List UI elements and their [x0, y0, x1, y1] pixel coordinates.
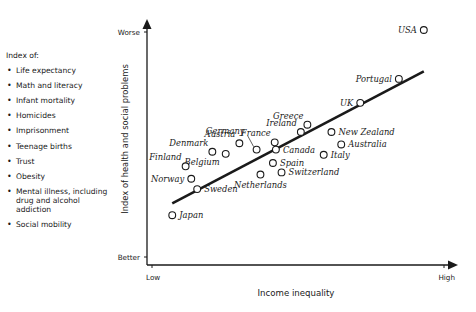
point-marker-icon: [278, 169, 285, 176]
point-marker-icon: [272, 146, 279, 153]
point-marker-icon: [257, 171, 264, 178]
data-point-switzerland: Switzerland: [278, 167, 340, 177]
point-marker-icon: [182, 163, 189, 170]
scatter-plot: Worse Better Low High Income inequality …: [0, 0, 476, 312]
country-label: UK: [340, 98, 354, 108]
data-point-finland: Finland: [148, 152, 189, 169]
data-point-norway: Norway: [150, 174, 195, 184]
point-marker-icon: [194, 186, 201, 193]
y-axis: Worse Better: [118, 19, 152, 265]
x-axis-title: Income inequality: [258, 288, 335, 298]
point-marker-icon: [236, 140, 243, 147]
point-marker-icon: [357, 99, 364, 106]
point-marker-icon: [420, 27, 427, 34]
data-point-france: France: [240, 128, 278, 145]
data-point-uk: UK: [340, 98, 364, 108]
country-label: Netherlands: [233, 180, 287, 190]
country-label: Japan: [177, 210, 203, 220]
country-label: Austria: [204, 129, 236, 139]
point-marker-icon: [271, 139, 278, 146]
y-top-label: Worse: [118, 28, 141, 37]
data-point-new-zealand: New Zealand: [328, 127, 395, 137]
point-marker-icon: [304, 121, 311, 128]
country-label: Italy: [330, 150, 350, 160]
y-bottom-label: Better: [118, 253, 140, 262]
point-marker-icon: [188, 175, 195, 182]
point-marker-icon: [395, 75, 402, 82]
country-label: Ireland: [265, 118, 297, 128]
data-point-japan: Japan: [169, 210, 204, 220]
point-marker-icon: [328, 129, 335, 136]
point-marker-icon: [320, 151, 327, 158]
country-label: Denmark: [168, 138, 208, 148]
x-left-label: Low: [146, 273, 160, 282]
point-marker-icon: [297, 129, 304, 136]
x-axis-arrow-icon: [448, 261, 458, 270]
point-marker-icon: [209, 148, 216, 155]
country-label: Switzerland: [289, 167, 340, 177]
x-axis: Low High Income inequality: [146, 261, 458, 299]
country-label: New Zealand: [337, 127, 395, 137]
point-marker-icon: [169, 212, 176, 219]
x-right-label: High: [438, 273, 455, 282]
point-marker-icon: [222, 150, 229, 157]
country-label: Sweden: [204, 184, 238, 194]
country-label: Norway: [150, 174, 185, 184]
country-label: Australia: [347, 139, 386, 149]
point-marker-icon: [253, 146, 260, 153]
data-point-australia: Australia: [338, 139, 387, 149]
data-point-belgium: Belgium: [184, 150, 230, 166]
point-marker-icon: [338, 141, 345, 148]
point-marker-icon: [270, 160, 277, 167]
country-label: Portugal: [355, 74, 392, 84]
country-label: Finland: [148, 152, 182, 162]
y-axis-arrow-icon: [143, 19, 152, 29]
country-label: Canada: [283, 145, 315, 155]
data-point-italy: Italy: [320, 150, 350, 160]
country-label: USA: [398, 25, 417, 35]
data-point-portugal: Portugal: [355, 74, 403, 84]
data-points: USAPortugalUKGreeceIrelandNew ZealandAus…: [148, 25, 427, 220]
data-point-usa: USA: [398, 25, 427, 35]
data-point-sweden: Sweden: [194, 184, 238, 194]
